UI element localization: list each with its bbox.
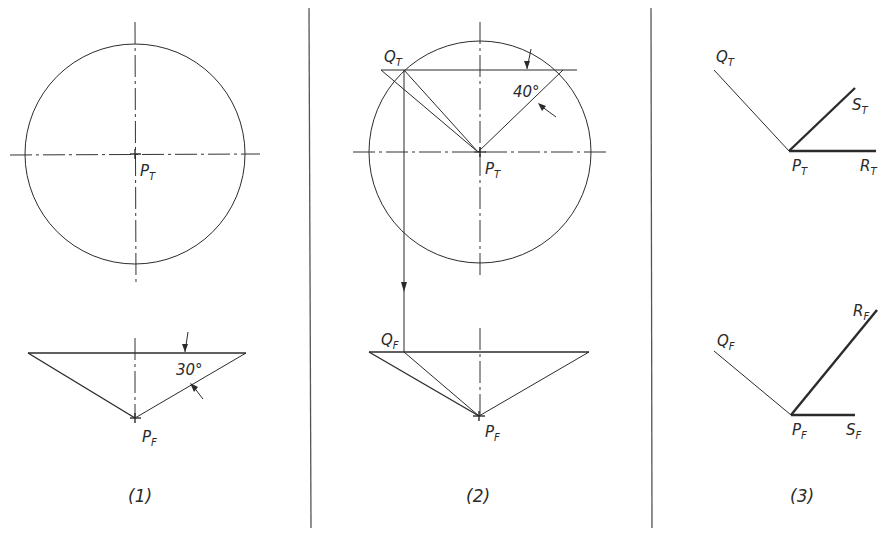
cone-left-element (369, 352, 479, 416)
panel-3-top-view: QT ST PT RT (714, 48, 877, 177)
construction-line (381, 70, 478, 152)
point-label-qf: QF (717, 332, 735, 352)
line-pq-front (714, 351, 791, 415)
panel-1-front-view: 30° PF (28, 332, 246, 448)
panel-1: PT 30° PF (1) (10, 22, 260, 506)
panel-2: 40° QT PT QF PF (2) (353, 22, 606, 506)
line-pq-top (714, 70, 789, 151)
point-label-pt: PT (792, 157, 808, 177)
panel-divider-2 (651, 8, 652, 528)
point-label-pf: PF (485, 423, 500, 443)
drawing-canvas: PT 30° PF (1) (0, 0, 888, 536)
angle-label-40: 40° (513, 83, 540, 101)
point-label-pt: PT (140, 162, 156, 182)
panel-1-top-view: PT (10, 22, 260, 284)
point-label-st: ST (852, 96, 869, 116)
panel-2-top-view: 40° QT PT (353, 22, 606, 352)
cone-left-element (28, 353, 135, 418)
panel-divider-1 (309, 8, 311, 528)
point-label-pt: PT (485, 160, 501, 180)
cone-right-element (479, 352, 589, 416)
panel-2-front-view: QF PF (369, 328, 589, 443)
panel-caption-3: (3) (790, 486, 814, 506)
panel-caption-2: (2) (466, 486, 490, 506)
point-label-pf: PF (792, 421, 807, 441)
arrow-down-icon (401, 282, 407, 292)
point-label-qt: QT (384, 48, 403, 68)
arrowhead-icon (524, 61, 530, 69)
point-label-sf: SF (846, 421, 862, 441)
line-pr-front (791, 310, 877, 415)
point-label-pf: PF (142, 428, 157, 448)
arrowhead-icon (538, 103, 546, 111)
line-ps-top (789, 88, 855, 151)
panel-caption-1: (1) (128, 486, 152, 506)
line-pq-front (404, 352, 479, 416)
angle-label-30: 30° (176, 361, 203, 379)
point-label-qf: QF (381, 331, 399, 351)
panel-3: QT ST PT RT QF RF PF SF (3) (714, 48, 877, 506)
arrowhead-icon (182, 344, 188, 352)
point-label-rf: RF (853, 302, 869, 322)
line-pq-top (404, 70, 478, 152)
point-label-rt: RT (860, 157, 877, 177)
point-label-qt: QT (716, 48, 735, 68)
panel-3-front-view: QF RF PF SF (714, 302, 877, 441)
